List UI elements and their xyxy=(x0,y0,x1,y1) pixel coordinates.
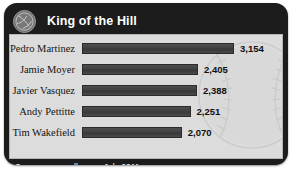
baseball-icon xyxy=(13,10,36,33)
bar xyxy=(82,106,191,117)
row-label: Jamie Moyer xyxy=(10,64,82,75)
row-label: Tim Wakefield xyxy=(10,127,82,138)
chart-widget: King of the Hill Pedro Martinez 3, xyxy=(4,3,288,165)
row-label: Andy Pettitte xyxy=(10,106,82,117)
table-row: Tim Wakefield 2,070 xyxy=(10,122,282,143)
bar xyxy=(82,85,197,96)
bar-rows: Pedro Martinez 3,154 Jamie Moyer 2,405 J… xyxy=(10,35,282,143)
bar xyxy=(82,64,198,75)
bar-track: 2,405 xyxy=(82,64,282,75)
bar xyxy=(82,127,182,138)
bar xyxy=(82,43,234,54)
table-row: Andy Pettitte 2,251 xyxy=(10,101,282,122)
page-title: King of the Hill xyxy=(47,14,137,28)
bar-value: 2,251 xyxy=(197,106,221,117)
row-label: Javier Vasquez xyxy=(10,85,82,96)
table-row: Javier Vasquez 2,388 xyxy=(10,80,282,101)
row-label: Pedro Martinez xyxy=(10,43,82,54)
table-row: Pedro Martinez 3,154 xyxy=(10,38,282,59)
bar-track: 2,388 xyxy=(82,85,282,96)
source-bar: Source: www.mlb.com, July 2011 xyxy=(9,159,283,165)
chart-panel: Pedro Martinez 3,154 Jamie Moyer 2,405 J… xyxy=(9,34,283,159)
bar-value: 3,154 xyxy=(240,43,264,54)
bar-track: 2,070 xyxy=(82,127,282,138)
source-text: Source: www.mlb.com, July 2011 xyxy=(15,162,140,166)
table-row: Jamie Moyer 2,405 xyxy=(10,59,282,80)
bar-value: 2,070 xyxy=(188,127,212,138)
bar-track: 3,154 xyxy=(82,43,282,54)
bar-value: 2,405 xyxy=(204,64,228,75)
widget-header: King of the Hill xyxy=(9,8,283,34)
bar-value: 2,388 xyxy=(203,85,227,96)
bar-track: 2,251 xyxy=(82,106,282,117)
